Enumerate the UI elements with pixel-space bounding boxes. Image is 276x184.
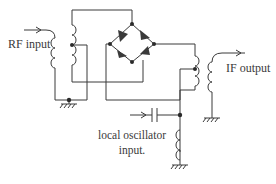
ground-icon <box>171 165 188 169</box>
rf-transformer-primary-icon <box>51 38 55 100</box>
lo-label-line2: input. <box>87 143 177 158</box>
if-transformer-primary-icon <box>180 56 199 100</box>
lo-label-line1: local oscillator <box>87 128 177 143</box>
ground-icon <box>203 118 220 122</box>
junction-dots <box>67 22 197 117</box>
lo-input-arrow-icon <box>130 112 152 118</box>
if-output-label: IF output <box>226 61 270 76</box>
lo-input-label: local oscillator input. <box>87 128 177 158</box>
if-output-arrow-icon <box>222 50 245 56</box>
capacitor-icon <box>152 108 157 122</box>
ground-icon <box>60 104 77 108</box>
if-transformer-secondary-icon <box>208 53 222 118</box>
rf-input-label: RF input <box>8 37 50 52</box>
diode-icons <box>117 30 150 58</box>
diode-ring-icon <box>110 24 154 62</box>
